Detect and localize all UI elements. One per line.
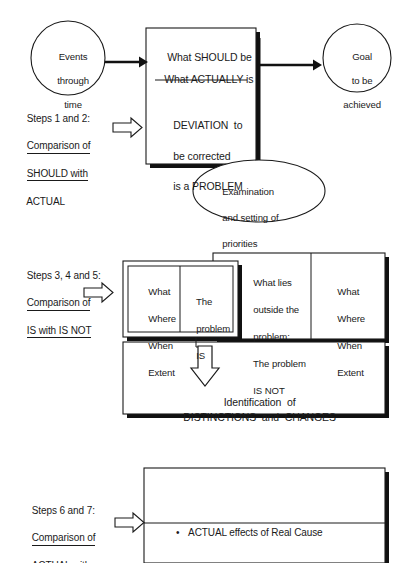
isnot-right-line-1: What bbox=[337, 286, 359, 297]
step-2-line-3: IS with IS NOT bbox=[27, 324, 92, 338]
step-1-line-4: ACTUAL bbox=[26, 196, 65, 207]
isnot-left-line-3: problem: bbox=[253, 331, 290, 342]
cause-bullets-bottom: •CAUSE that exactly fits is the Most Lik… bbox=[160, 533, 385, 563]
examination-ellipse-label: Examination and setting of priorities bbox=[212, 173, 312, 264]
step-3-line-1: Steps 6 and 7: bbox=[32, 505, 95, 516]
step-label-1: Steps 1 and 2: Comparison of SHOULD with… bbox=[16, 99, 126, 222]
is-left-line-3: When bbox=[148, 340, 173, 351]
isnot-left-line-4: The problem bbox=[253, 358, 306, 369]
is-right-line-3: IS bbox=[196, 350, 205, 361]
isnot-left-line-1: What lies bbox=[253, 277, 292, 288]
step-1-line-1: Steps 1 and 2: bbox=[27, 113, 90, 124]
examination-line-2: and setting of bbox=[222, 212, 278, 223]
step-3-line-3: ACTUAL with bbox=[32, 559, 91, 563]
is-left-line-4: Extent bbox=[148, 367, 175, 378]
goal-line-2: to be bbox=[352, 75, 373, 86]
events-line-2: through bbox=[57, 75, 89, 86]
arrow-events-to-box-head bbox=[139, 57, 148, 68]
goal-circle-label: Goal to be achieved bbox=[327, 39, 387, 123]
isnot-right-line-4: Extent bbox=[337, 367, 364, 378]
step-1-line-2: Comparison of bbox=[27, 139, 91, 153]
step-1-line-3: SHOULD with bbox=[27, 167, 88, 181]
isnot-cell-right-label: What Where When Extent bbox=[327, 272, 377, 393]
examination-line-3: priorities bbox=[222, 238, 257, 249]
step-3-line-2: Comparison of bbox=[32, 531, 96, 545]
main-box-top-line-2: What ACTUALLY is bbox=[164, 73, 253, 85]
diagram-canvas: Events through time Goal to be achieved … bbox=[0, 0, 398, 563]
isnot-left-line-2: outside the bbox=[253, 304, 299, 315]
is-cell-right-label: The problem IS bbox=[186, 282, 236, 376]
deviation-line-1: DEVIATION to bbox=[173, 119, 242, 131]
step-2-line-1: Steps 3, 4 and 5: bbox=[27, 270, 101, 281]
examination-line-1: Examination bbox=[222, 186, 274, 197]
isnot-right-line-2: Where bbox=[337, 313, 365, 324]
main-box-top-text-2: What ACTUALLY is bbox=[153, 60, 257, 98]
step-label-3: Steps 6 and 7: Comparison of ACTUAL with… bbox=[21, 491, 141, 563]
goal-line-1: Goal bbox=[352, 51, 372, 62]
is-right-line-2: problem bbox=[196, 323, 230, 334]
step-label-2: Steps 3, 4 and 5: Comparison of IS with … bbox=[16, 256, 136, 352]
events-line-1: Events bbox=[59, 51, 88, 62]
result-box-line-2: DISTINCTIONS and CHANGES bbox=[123, 398, 385, 436]
is-right-line-1: The bbox=[196, 296, 212, 307]
distinctions-text: DISTINCTIONS and CHANGES bbox=[183, 411, 336, 423]
deviation-line-2: be corrected bbox=[173, 150, 230, 162]
goal-line-3: achieved bbox=[343, 99, 381, 110]
is-left-line-2: Where bbox=[148, 313, 176, 324]
arrow-box-to-goal-head bbox=[313, 60, 322, 71]
is-left-line-1: What bbox=[148, 286, 170, 297]
isnot-right-line-3: When bbox=[337, 340, 362, 351]
step-2-line-2: Comparison of bbox=[27, 296, 91, 310]
is-cell-left-label: What Where When Extent bbox=[138, 272, 183, 393]
